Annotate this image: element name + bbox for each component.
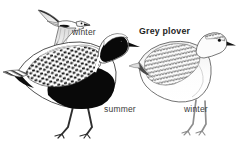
figure-summer-bird [3, 34, 140, 138]
plate-title: Grey plover [139, 27, 190, 36]
label-summer: summer [104, 105, 136, 114]
illustration-plate: winter Grey plover summer winter [0, 0, 237, 144]
bird-illustration-artwork [0, 0, 237, 144]
figure-winter-bird [129, 33, 236, 135]
label-winter-standing: winter [184, 105, 208, 114]
label-winter-flight: winter [72, 28, 96, 37]
